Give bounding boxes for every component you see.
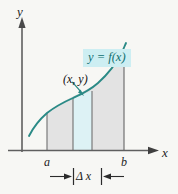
representative-rectangle xyxy=(73,91,92,150)
area-under-curve-chart xyxy=(0,0,178,194)
figure-container: y x a b (x, y) y = f(x) Δ x xyxy=(0,0,178,194)
lower-limit-label: a xyxy=(44,156,50,168)
y-axis-label: y xyxy=(17,5,23,18)
curve-equation-label: y = f(x) xyxy=(83,49,131,67)
x-axis-label: x xyxy=(162,146,168,159)
upper-limit-label: b xyxy=(121,156,127,168)
delta-x-label: Δ x xyxy=(76,170,91,182)
point-coordinate-label: (x, y) xyxy=(63,73,88,85)
